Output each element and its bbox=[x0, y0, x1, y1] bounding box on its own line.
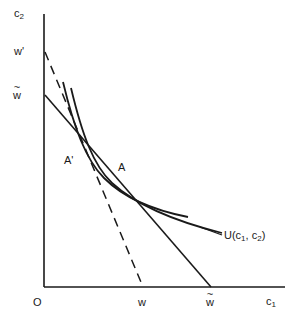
point-label-a: A bbox=[118, 162, 125, 173]
x-axis-label: c1 bbox=[266, 296, 276, 307]
origin-label: O bbox=[33, 297, 42, 308]
y-tick-label-w-tilde: ~w bbox=[13, 90, 21, 101]
consumption-diagram: c2 w' ~w A' A U(c1, c2) O w ~w c1 bbox=[0, 0, 294, 320]
indifference-curve-upper bbox=[63, 82, 188, 217]
utility-function-label: U(c1, c2) bbox=[224, 230, 265, 241]
budget-line-w-tilde bbox=[45, 95, 211, 287]
y-tick-label-w-prime: w' bbox=[14, 46, 24, 57]
x-tick-label-w: w bbox=[138, 297, 146, 308]
budget-line-w-prime bbox=[45, 52, 143, 287]
diagram-canvas bbox=[0, 0, 294, 320]
y-axis-label: c2 bbox=[14, 8, 24, 19]
x-tick-label-w-tilde: ~w bbox=[206, 297, 214, 308]
utility-leader-line bbox=[200, 227, 222, 235]
point-label-a-prime: A' bbox=[64, 155, 73, 166]
